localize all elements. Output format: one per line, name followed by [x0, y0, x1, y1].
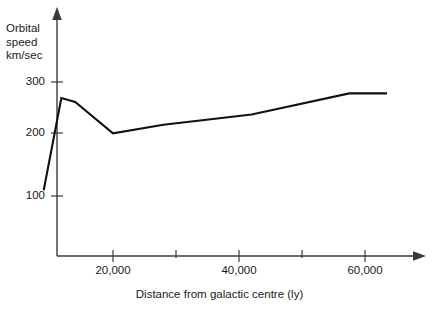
- chart-figure: Orbital speed km/sec 300 200 100 20,000 …: [0, 0, 439, 310]
- y-axis-title: Orbital speed km/sec: [6, 22, 54, 63]
- x-axis-arrow-icon: [413, 251, 426, 261]
- y-axis-title-line-2: speed: [6, 36, 54, 50]
- y-axis-title-line-3: km/sec: [6, 49, 54, 63]
- x-axis-title: Distance from galactic centre (ly): [0, 288, 439, 300]
- y-tick-label-300: 300: [5, 75, 45, 87]
- rotation-curve-line: [44, 93, 387, 190]
- x-tick-label-20000: 20,000: [78, 264, 148, 276]
- y-tick-label-100: 100: [5, 189, 45, 201]
- x-tick-label-60000: 60,000: [330, 264, 400, 276]
- y-tick-label-200: 200: [5, 126, 45, 138]
- y-axis-arrow-icon: [52, 7, 62, 20]
- y-axis-title-line-1: Orbital: [6, 22, 54, 36]
- x-tick-label-40000: 40,000: [204, 264, 274, 276]
